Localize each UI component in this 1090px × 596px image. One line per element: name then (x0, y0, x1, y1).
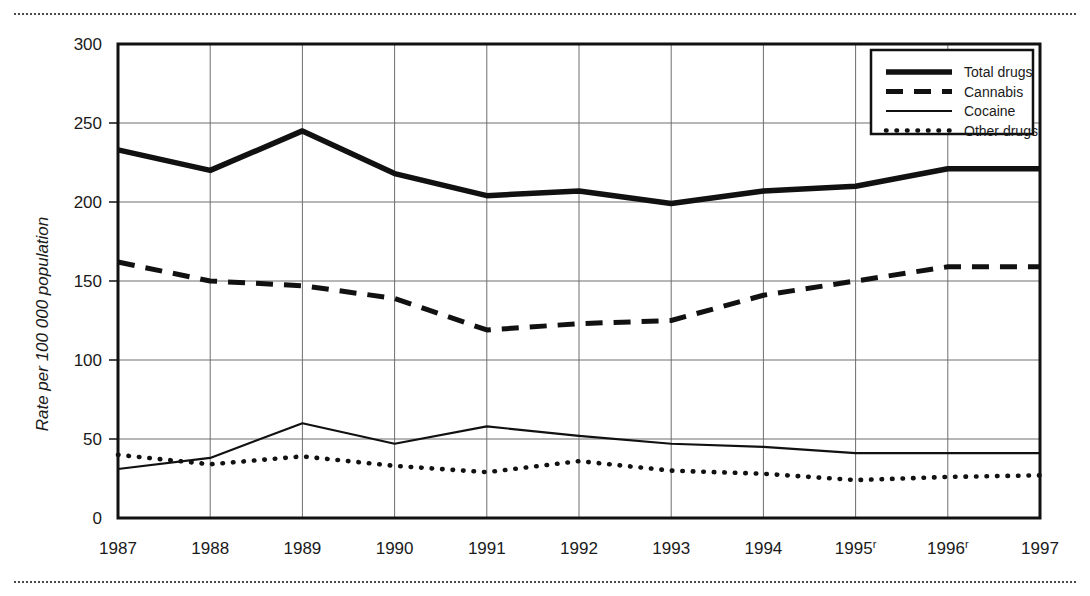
legend-label-3: Other drugs (964, 123, 1038, 139)
x-tick-label: 1995r (835, 538, 877, 558)
bottom-dotted-divider (14, 581, 1076, 583)
y-tick-label: 100 (74, 351, 102, 370)
y-tick-label: 0 (93, 509, 102, 528)
x-tick-label: 1987 (99, 539, 137, 558)
x-tick-label: 1993 (652, 539, 690, 558)
y-tick-label: 150 (74, 272, 102, 291)
x-axis-ticks: 198719881989199019911992199319941995r199… (99, 538, 1059, 558)
x-tick-label: 1994 (744, 539, 782, 558)
x-tick-label: 1996r (927, 538, 969, 558)
chart-legend: Total drugsCannabisCocaineOther drugs (871, 50, 1038, 139)
y-tick-label: 250 (74, 114, 102, 133)
top-dotted-divider (14, 13, 1076, 15)
legend-label-1: Cannabis (964, 84, 1023, 100)
legend-label-0: Total drugs (964, 64, 1032, 80)
figure-container: Rate per 100 000 population 050100150200… (0, 0, 1090, 596)
legend-label-2: Cocaine (964, 103, 1016, 119)
line-chart: Rate per 100 000 population 050100150200… (0, 24, 1090, 572)
y-axis-title: Rate per 100 000 population (33, 217, 52, 432)
x-tick-label: 1990 (376, 539, 414, 558)
x-tick-label: 1992 (560, 539, 598, 558)
y-tick-label: 200 (74, 193, 102, 212)
x-tick-label: 1989 (283, 539, 321, 558)
y-tick-label: 50 (83, 430, 102, 449)
x-tick-label: 1991 (468, 539, 506, 558)
x-tick-label: 1997 (1021, 539, 1059, 558)
y-tick-label: 300 (74, 35, 102, 54)
x-tick-label: 1988 (191, 539, 229, 558)
y-axis-ticks: 050100150200250300 (74, 35, 118, 528)
